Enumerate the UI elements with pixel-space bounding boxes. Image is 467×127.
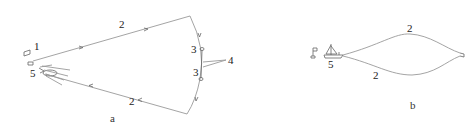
caption-b: b (410, 99, 416, 111)
net-end (460, 53, 464, 57)
arc (187, 16, 202, 114)
marker-1-square (24, 50, 30, 56)
diagram-canvas: 1 2 2 3 3 4 5 a 2 2 5 (0, 0, 467, 127)
line-2-bottom (45, 74, 187, 114)
line-2-bottom (343, 56, 460, 75)
vessel-5-icon (39, 65, 70, 85)
arrow-icon (195, 97, 198, 101)
label-2-top: 2 (119, 18, 125, 30)
arrow-icon (144, 28, 148, 31)
vessel-5-icon (324, 44, 343, 58)
panel-a: 1 2 2 3 3 4 5 a (24, 16, 234, 124)
arrow-icon (138, 98, 142, 102)
label-3-lower: 3 (193, 66, 199, 78)
panel-b: 2 2 5 b (311, 22, 464, 111)
label-5: 5 (328, 58, 334, 70)
diagram-svg: 1 2 2 3 3 4 5 a 2 2 5 (0, 0, 467, 127)
buoy-flag-icon (311, 48, 317, 58)
marker-1-square-2 (28, 62, 33, 65)
label-5: 5 (30, 67, 36, 79)
label-1: 1 (34, 40, 40, 52)
label-4: 4 (228, 54, 234, 66)
line-2-top (343, 34, 460, 55)
label-2-bottom: 2 (373, 69, 379, 81)
label-2-top: 2 (407, 22, 413, 34)
line-2-top (33, 16, 190, 61)
label-3-upper: 3 (191, 43, 197, 55)
label-2-bottom: 2 (129, 95, 135, 107)
caption-a: a (110, 112, 115, 124)
